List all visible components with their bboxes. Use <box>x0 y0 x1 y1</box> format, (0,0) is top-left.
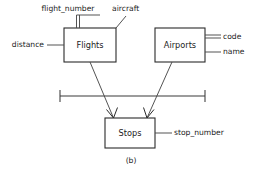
flights-stops-arrowhead <box>107 108 118 119</box>
airports-stops-edge <box>147 62 172 118</box>
relationship-flights-to-stops[interactable] <box>90 62 118 118</box>
attribute-stop-number[interactable]: stop_number <box>155 128 225 137</box>
flights-stops-edge <box>90 62 114 118</box>
attribute-distance[interactable]: distance <box>12 40 64 49</box>
attribute-flight-number-label: flight_number <box>42 4 96 13</box>
attribute-stop-number-label: stop_number <box>174 128 225 137</box>
relationship-airports-to-stops[interactable] <box>144 62 173 118</box>
attribute-code-label: code <box>223 32 242 41</box>
entity-flights-label: Flights <box>76 40 103 50</box>
entity-flights[interactable]: Flights <box>64 28 116 62</box>
attribute-aircraft[interactable]: aircraft <box>112 4 139 28</box>
airports-stops-arrowhead <box>144 108 155 119</box>
isa-horizontal-bar <box>60 90 205 102</box>
attribute-code[interactable]: code <box>205 32 242 41</box>
entity-stops[interactable]: Stops <box>105 118 155 148</box>
entity-airports[interactable]: Airports <box>155 28 205 62</box>
aircraft-connector <box>116 16 126 28</box>
attribute-aircraft-label: aircraft <box>112 4 139 13</box>
attribute-flight-number[interactable]: flight_number <box>42 4 100 28</box>
attribute-distance-label: distance <box>12 40 45 49</box>
er-diagram-canvas: Flights flight_number aircraft distance … <box>0 0 254 174</box>
figure-caption: (b) <box>126 156 137 165</box>
attribute-name-label: name <box>223 47 245 56</box>
er-diagram: Flights flight_number aircraft distance … <box>0 0 254 174</box>
entity-stops-label: Stops <box>119 128 142 138</box>
attribute-name[interactable]: name <box>205 47 245 56</box>
entity-airports-label: Airports <box>164 40 196 50</box>
